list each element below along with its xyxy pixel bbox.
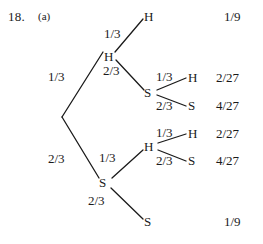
prob-s-to-h: 1/3 <box>99 151 116 164</box>
node-hsh: H <box>188 71 197 84</box>
outcome-prob-ss: 1/9 <box>224 215 241 228</box>
node-level1-h: H <box>104 50 113 63</box>
node-hs: S <box>144 86 151 99</box>
prob-root-to-h: 1/3 <box>48 70 65 83</box>
prob-s-to-s: 2/3 <box>88 194 105 207</box>
outcome-prob-shh: 2/27 <box>216 127 239 140</box>
node-level1-s: S <box>99 176 106 189</box>
prob-hs-to-s: 2/3 <box>156 99 173 112</box>
probability-tree-figure: 18. (a) H 1/3 S 2/3 <box>0 0 263 244</box>
prob-sh-to-h: 1/3 <box>156 126 173 139</box>
node-ss: S <box>144 215 151 228</box>
node-shh: H <box>188 127 197 140</box>
branch-root-to-s <box>62 117 99 178</box>
node-shs: S <box>188 154 195 167</box>
prob-hs-to-h: 1/3 <box>156 70 173 83</box>
branch-s-to-s <box>111 188 143 219</box>
outcome-prob-hss: 4/27 <box>216 99 239 112</box>
prob-sh-to-s: 2/3 <box>156 154 173 167</box>
branch-s-to-h <box>112 150 143 178</box>
outcome-prob-shs: 4/27 <box>216 154 239 167</box>
tree-branch-lines <box>0 0 263 244</box>
prob-h-to-s: 2/3 <box>103 64 120 77</box>
outcome-prob-hh: 1/9 <box>224 10 241 23</box>
branch-root-to-h <box>62 52 103 117</box>
branch-h-to-s <box>116 60 144 90</box>
node-hh: H <box>144 10 153 23</box>
prob-h-to-h: 1/3 <box>104 27 121 40</box>
node-sh: H <box>144 140 153 153</box>
outcome-prob-hsh: 2/27 <box>216 71 239 84</box>
prob-root-to-s: 2/3 <box>48 152 65 165</box>
node-hss: S <box>188 99 195 112</box>
